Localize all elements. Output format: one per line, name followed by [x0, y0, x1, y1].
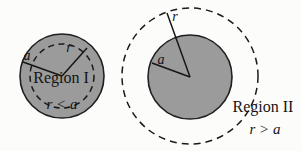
region-one-label-a: a — [24, 48, 31, 63]
figure-root: a r Region I r < a r a Region II r > a — [0, 0, 301, 151]
region-one-condition-label: r < a — [47, 96, 78, 112]
region-two-label-r: r — [172, 9, 178, 24]
region-two-condition-label: r > a — [250, 121, 281, 137]
region-two-label-a: a — [158, 52, 165, 67]
region-two-region-label: Region II — [233, 98, 294, 116]
region-two-panel: r a Region II r > a — [122, 8, 293, 144]
physics-diagram: a r Region I r < a r a Region II r > a — [0, 0, 301, 151]
region-one-panel: a r Region I r < a — [20, 34, 104, 118]
region-one-label-r: r — [66, 40, 72, 55]
region-one-region-label: Region I — [33, 69, 89, 87]
